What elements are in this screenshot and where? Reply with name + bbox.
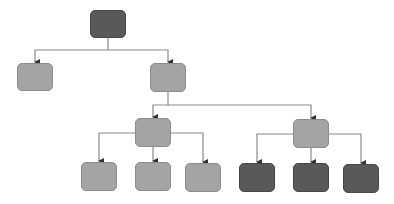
edge-l2right-l3-6 — [329, 134, 361, 163]
tree-node-l3-1 — [81, 162, 117, 191]
edge-l2right-l3-4 — [257, 134, 293, 162]
tree-node-l2-left — [135, 118, 171, 147]
edge-root-l1-right — [108, 50, 168, 62]
tree-node-l3-2 — [135, 162, 171, 191]
tree-node-l3-6 — [343, 164, 379, 193]
edge-l2left-l3-3 — [171, 133, 203, 162]
edge-l2left-l3-1 — [99, 133, 135, 161]
tree-node-l1-right — [150, 63, 186, 92]
tree-node-root — [90, 10, 126, 38]
tree-node-l3-3 — [185, 163, 221, 192]
tree-node-l3-5 — [293, 163, 329, 192]
edge-root-l1-left — [35, 38, 108, 62]
edge-l1right-l2left — [153, 92, 168, 117]
tree-node-l2-right — [293, 119, 329, 148]
tree-node-l3-4 — [239, 163, 275, 192]
edge-l1right-l2right — [168, 105, 311, 118]
tree-node-l1-left — [17, 63, 53, 91]
